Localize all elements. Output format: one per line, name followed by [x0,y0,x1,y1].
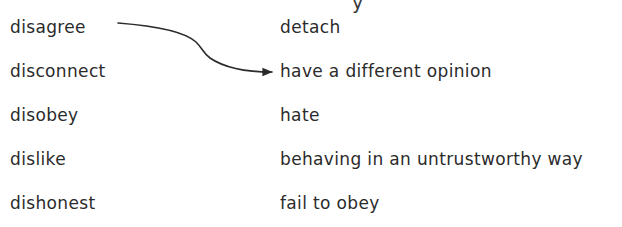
list-item[interactable]: detach [280,13,341,41]
list-item[interactable]: disagree [10,13,86,41]
matching-worksheet: y disagree disconnect disobey dislike di… [0,0,622,227]
prefix-words-column: disagree disconnect disobey dislike dish… [10,0,210,227]
list-item[interactable]: dislike [10,145,66,173]
list-item[interactable]: have a different opinion [280,57,492,85]
list-item[interactable]: disconnect [10,57,106,85]
list-item[interactable]: behaving in an untrustworthy way [280,145,583,173]
list-item[interactable]: disobey [10,101,79,129]
list-item[interactable]: fail to obey [280,189,380,217]
list-item[interactable]: dishonest [10,189,95,217]
list-item[interactable]: hate [280,101,320,129]
definitions-column: detach have a different opinion hate beh… [280,0,622,227]
